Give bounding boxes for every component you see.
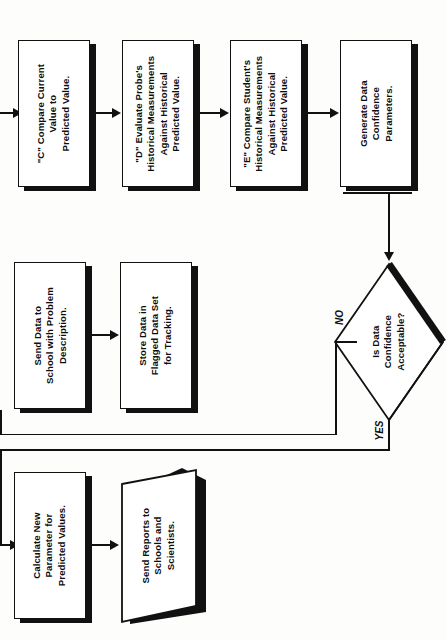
connector-2-3-line <box>194 112 222 114</box>
node-compare-current-value[interactable]: "C" Compare Current Value to Predicted V… <box>18 40 90 187</box>
connector-1-2-line <box>90 112 114 114</box>
node-label: "C" Compare Current Value to Predicted V… <box>35 64 72 164</box>
node-label: Calculate New Parameter for Predicted Va… <box>31 505 68 586</box>
node-compare-student-historical[interactable]: "E" Compare Student's Historical Measure… <box>230 40 302 187</box>
flowchart-canvas: "C" Compare Current Value to Predicted V… <box>0 0 447 640</box>
connector-7-8-line <box>86 544 112 546</box>
connector-inbound-line <box>0 112 14 114</box>
connector-1-2-arrow <box>112 108 121 118</box>
node-text-wrap: Store Data in Flagged Data Set for Track… <box>120 262 192 409</box>
node-text-wrap: Calculate New Parameter for Predicted Va… <box>14 472 86 619</box>
branch-label-yes: YES <box>374 417 385 445</box>
connector-5-6-line <box>86 334 112 336</box>
branch-label-no: NO <box>334 306 345 330</box>
node-send-reports[interactable]: Send Reports to Schools and Scientists. <box>118 466 210 626</box>
connector-3-4-line <box>302 112 332 114</box>
node-label: "D" Evaluate Probe's Historical Measurem… <box>133 56 183 172</box>
node-label: Send Reports to Schools and Scientists. <box>140 508 177 584</box>
scan-edge-artifact <box>436 250 445 430</box>
branch-yes-vertical <box>388 418 390 450</box>
node-label: Generate Data Confidence Parameters. <box>357 80 394 146</box>
node-text-wrap: Send Data to School with Problem Descrip… <box>14 262 86 409</box>
node-label: "E" Compare Student's Historical Measure… <box>241 56 291 172</box>
node-text-wrap: "D" Evaluate Probe's Historical Measurem… <box>122 40 194 187</box>
node-text-wrap: "C" Compare Current Value to Predicted V… <box>18 40 90 187</box>
node-store-data-flagged[interactable]: Store Data in Flagged Data Set for Track… <box>120 262 192 409</box>
connector-5-6-arrow <box>110 330 119 340</box>
node-label: Store Data in Flagged Data Set for Track… <box>137 296 174 375</box>
branch-no-vertical <box>335 341 337 435</box>
branch-yes-enter-vertical <box>0 449 2 545</box>
node-text-wrap: Send Reports to Schools and Scientists. <box>120 466 198 626</box>
branch-no-enter-vertical <box>0 410 2 434</box>
branch-no-stub <box>335 341 357 343</box>
connector-4-diamond-arrow <box>384 252 394 261</box>
node-send-data-to-school[interactable]: Send Data to School with Problem Descrip… <box>14 262 86 409</box>
node-label: Is Data Confidence Acceptable? <box>370 313 407 371</box>
node-calculate-new-parameter[interactable]: Calculate New Parameter for Predicted Va… <box>14 472 86 619</box>
node-text-wrap: Generate Data Confidence Parameters. <box>340 40 412 187</box>
branch-yes-horizontal <box>0 449 390 451</box>
node-label: Send Data to School with Problem Descrip… <box>31 287 68 384</box>
connector-4-diamond-line <box>388 192 390 254</box>
node-text-wrap: "E" Compare Student's Historical Measure… <box>230 40 302 187</box>
node-evaluate-probe-historical[interactable]: "D" Evaluate Probe's Historical Measurem… <box>122 40 194 187</box>
node-generate-confidence-parameters[interactable]: Generate Data Confidence Parameters. <box>340 40 412 187</box>
connector-4-diamond-stub <box>343 192 412 194</box>
connector-3-4-arrow <box>330 108 339 118</box>
connector-2-3-arrow <box>220 108 229 118</box>
branch-no-horizontal <box>0 434 336 436</box>
